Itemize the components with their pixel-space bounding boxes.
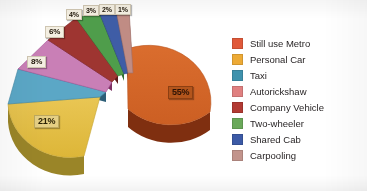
legend-label: Still use Metro	[250, 38, 310, 49]
legend-item-two-wheeler[interactable]: Two-wheeler	[229, 115, 361, 131]
legend-item-shared-cab[interactable]: Shared Cab	[229, 131, 361, 147]
legend-item-personal-car[interactable]: Personal Car	[229, 51, 361, 67]
legend-label: Shared Cab	[250, 134, 301, 145]
legend-swatch-icon	[232, 102, 243, 113]
legend-swatch-icon	[232, 150, 243, 161]
legend-label: Taxi	[250, 70, 267, 81]
legend-swatch-icon	[232, 118, 243, 129]
legend-label: Company Vehicle	[250, 102, 324, 113]
legend-item-taxi[interactable]: Taxi	[229, 67, 361, 83]
pie-chart: 55% 21% 8% 6% 4% 3% 2% 1% Still use Metr…	[0, 0, 367, 191]
chart-legend: Still use Metro Personal Car Taxi Autori…	[229, 35, 361, 163]
legend-swatch-icon	[232, 70, 243, 81]
legend-swatch-icon	[232, 134, 243, 145]
legend-label: Autorickshaw	[250, 86, 307, 97]
pie-graphic	[0, 0, 232, 191]
legend-swatch-icon	[232, 38, 243, 49]
pie-plot-area: 55% 21% 8% 6% 4% 3% 2% 1%	[0, 0, 232, 191]
legend-label: Carpooling	[250, 150, 296, 161]
data-label-two-wheeler: 3%	[83, 5, 99, 16]
legend-item-still-use-metro[interactable]: Still use Metro	[229, 35, 361, 51]
data-label-still-use-metro: 55%	[168, 86, 193, 99]
data-label-carpooling: 1%	[115, 4, 131, 15]
data-label-company-vehicle: 4%	[66, 9, 82, 20]
data-label-shared-cab: 2%	[99, 4, 115, 15]
legend-label: Personal Car	[250, 54, 305, 65]
legend-item-company-vehicle[interactable]: Company Vehicle	[229, 99, 361, 115]
legend-item-carpooling[interactable]: Carpooling	[229, 147, 361, 163]
data-label-autorickshaw: 6%	[45, 26, 64, 38]
legend-label: Two-wheeler	[250, 118, 304, 129]
data-label-personal-car: 21%	[34, 115, 59, 128]
data-label-taxi: 8%	[27, 56, 46, 68]
legend-item-autorickshaw[interactable]: Autorickshaw	[229, 83, 361, 99]
legend-swatch-icon	[232, 86, 243, 97]
legend-swatch-icon	[232, 54, 243, 65]
